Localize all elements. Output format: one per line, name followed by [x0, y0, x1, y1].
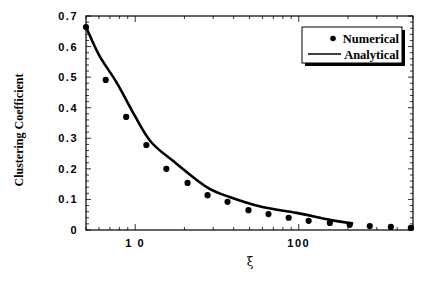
numerical-point — [184, 180, 190, 186]
y-tick-label: 0.5 — [58, 71, 78, 83]
y-tick-label: 0.1 — [58, 193, 78, 205]
x-tick-label: 100 — [287, 237, 310, 249]
y-axis-title: Clustering Coefficient — [12, 74, 26, 187]
numerical-point — [83, 24, 89, 30]
numerical-point — [123, 114, 129, 120]
numerical-point — [103, 77, 109, 83]
numerical-point — [286, 215, 292, 221]
numerical-point — [163, 166, 169, 172]
y-tick-label: 0.6 — [58, 41, 78, 53]
numerical-point — [204, 192, 210, 198]
legend: Numerical Analytical — [302, 27, 405, 66]
y-tick-label: 0.4 — [58, 102, 78, 114]
numerical-point — [143, 142, 149, 148]
numerical-point — [245, 207, 251, 213]
legend-label-analytical: Analytical — [344, 48, 399, 62]
numerical-point — [306, 218, 312, 224]
legend-dot-marker — [330, 36, 336, 42]
legend-label-numerical: Numerical — [343, 32, 400, 46]
y-tick-label: 0.2 — [58, 163, 78, 175]
x-tick-label: 1 0 — [125, 237, 145, 249]
numerical-point — [408, 225, 414, 231]
numerical-point — [367, 223, 373, 229]
numerical-point — [388, 224, 394, 230]
chart: 00.10.20.30.40.50.60.7 1 0100 Clustering… — [0, 0, 429, 284]
y-tick-label: 0.3 — [58, 132, 78, 144]
numerical-point — [327, 220, 333, 226]
numerical-point — [224, 199, 230, 205]
y-tick-label: 0.7 — [58, 10, 78, 22]
numerical-point — [265, 211, 271, 217]
x-axis-title: ξ — [247, 255, 254, 269]
y-tick-label: 0 — [70, 224, 78, 236]
numerical-point — [347, 222, 353, 228]
